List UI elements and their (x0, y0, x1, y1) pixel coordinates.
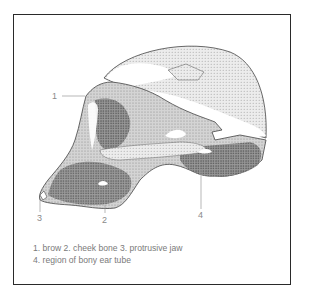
label-1-brow: 1 (52, 92, 57, 101)
label-3-protrusive-jaw: 3 (37, 214, 42, 223)
caption-line-1: 1. brow 2. cheek bone 3. protrusive jaw (33, 243, 183, 255)
label-4-ear-tube: 4 (198, 211, 203, 220)
figure-caption: 1. brow 2. cheek bone 3. protrusive jaw … (33, 243, 183, 266)
caption-line-2: 4. region of bony ear tube (33, 255, 183, 267)
label-2-cheek-bone: 2 (102, 216, 107, 225)
